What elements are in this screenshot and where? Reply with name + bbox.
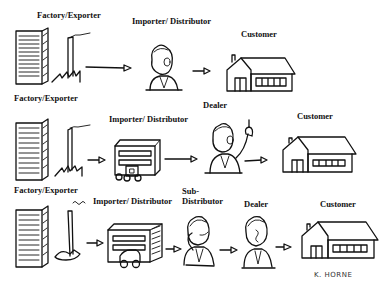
arrow-icon — [86, 65, 131, 71]
row2-dealer-person-icon — [205, 120, 253, 173]
row3-dealer-person-icon — [242, 217, 275, 268]
arrow-icon — [193, 68, 210, 74]
row2-factory-building-icon — [16, 119, 48, 180]
row1-factory-building-icon — [16, 28, 48, 84]
arrow-icon — [276, 244, 291, 250]
row2-customer-house-icon — [283, 137, 356, 172]
row1-customer-house-icon — [227, 55, 295, 91]
row2-distribution-warehouse-icon — [115, 140, 160, 181]
row3-distribution-warehouse-icon — [108, 224, 162, 268]
arrow-icon — [220, 247, 237, 253]
arrow-icon — [245, 157, 267, 163]
row3-customer-house-icon — [302, 222, 378, 258]
row1-importer-person-icon — [146, 45, 182, 90]
arrow-icon — [165, 156, 197, 162]
arrow-icon — [166, 246, 181, 252]
row3-smokestack-icon — [55, 202, 85, 261]
arrow-icon — [88, 157, 105, 163]
row2-smokestack-icon — [55, 125, 90, 176]
row3-subdistributor-person-icon — [184, 217, 214, 266]
row3-factory-building-icon — [16, 206, 48, 267]
row1-smokestack-icon — [52, 33, 90, 82]
arrow-icon — [87, 240, 103, 246]
